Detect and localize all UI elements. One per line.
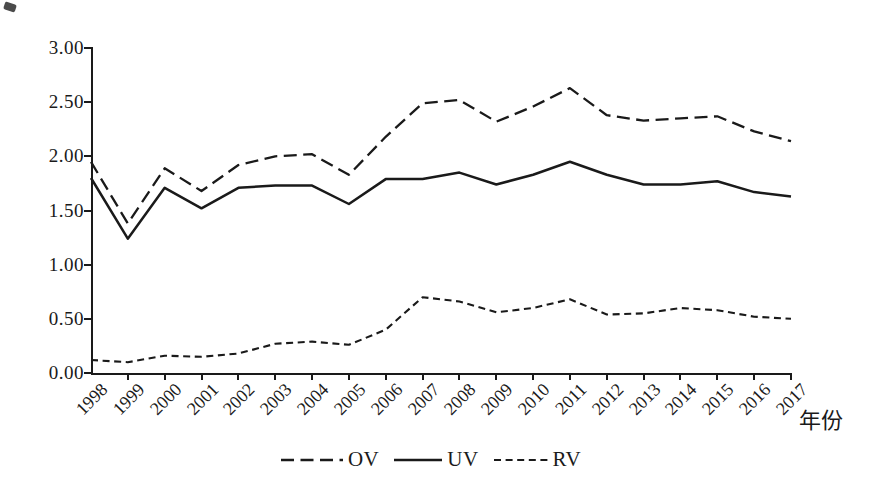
legend-item-ov: OV xyxy=(281,447,379,472)
line-chart-figure: 0.000.501.001.502.002.503.00 19981999200… xyxy=(0,0,880,499)
x-tick-mark xyxy=(569,374,571,380)
x-tick-mark xyxy=(753,374,755,380)
y-tick-mark xyxy=(84,318,91,320)
x-tick-mark xyxy=(385,374,387,380)
y-tick-mark xyxy=(84,372,91,374)
y-tick-label: 0.00 xyxy=(28,362,84,384)
x-tick-mark xyxy=(679,374,681,380)
x-tick-mark xyxy=(606,374,608,380)
y-tick-mark xyxy=(84,101,91,103)
y-axis-line xyxy=(91,47,93,375)
y-tick-mark xyxy=(84,210,91,212)
legend-label-uv: UV xyxy=(447,447,478,472)
x-tick-mark xyxy=(201,374,203,380)
y-tick-mark xyxy=(84,264,91,266)
x-tick-mark xyxy=(237,374,239,380)
legend: OVUVRV xyxy=(0,447,871,472)
x-tick-mark xyxy=(458,374,460,380)
legend-label-ov: OV xyxy=(348,447,379,472)
legend-item-uv: UV xyxy=(394,447,478,472)
legend-item-rv: RV xyxy=(494,447,582,472)
x-tick-mark xyxy=(643,374,645,380)
series-line-uv xyxy=(91,162,791,239)
x-tick-mark xyxy=(127,374,129,380)
x-tick-mark xyxy=(164,374,166,380)
x-axis-line xyxy=(91,373,792,375)
y-tick-mark xyxy=(84,155,91,157)
x-tick-mark xyxy=(790,374,792,380)
legend-label-rv: RV xyxy=(553,447,582,472)
x-tick-mark xyxy=(495,374,497,380)
y-tick-mark xyxy=(84,47,91,49)
y-tick-label: 1.50 xyxy=(28,200,84,222)
legend-line-sample-rv xyxy=(494,456,548,464)
x-tick-mark xyxy=(311,374,313,380)
legend-line-sample-ov xyxy=(281,456,343,464)
legend-line-sample-uv xyxy=(394,456,442,464)
y-tick-label: 3.00 xyxy=(28,37,84,59)
x-tick-mark xyxy=(532,374,534,380)
y-tick-label: 2.00 xyxy=(28,145,84,167)
y-tick-label: 1.00 xyxy=(28,254,84,276)
y-tick-label: 2.50 xyxy=(28,91,84,113)
x-axis-title: 年份 xyxy=(799,402,843,434)
series-line-ov xyxy=(91,88,791,223)
x-tick-mark xyxy=(348,374,350,380)
series-line-rv xyxy=(91,297,791,362)
x-tick-mark xyxy=(422,374,424,380)
x-tick-mark xyxy=(716,374,718,380)
y-tick-label: 0.50 xyxy=(28,308,84,330)
x-tick-mark xyxy=(274,374,276,380)
scan-smudge-mark xyxy=(3,1,17,12)
